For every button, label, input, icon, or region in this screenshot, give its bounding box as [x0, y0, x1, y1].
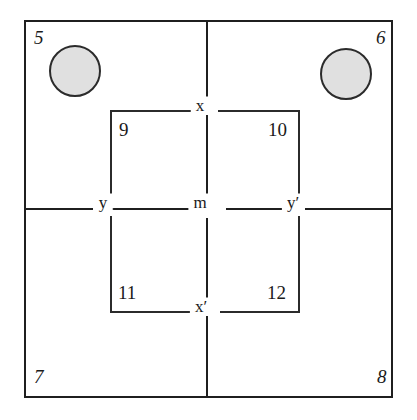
node-label-x-prime: x′: [190, 298, 212, 315]
region-label-9: 9: [119, 120, 129, 139]
node-label-y-prime: y′: [282, 194, 304, 211]
circle-top-left: [49, 45, 101, 97]
bracket-12-right: [298, 216, 300, 313]
diagram-canvas: 5 6 7 8 9 10 11 12 x x′ y m y′: [0, 0, 417, 420]
bracket-9-left: [110, 110, 112, 202]
circle-top-right: [320, 48, 372, 100]
bracket-10-right: [298, 110, 300, 202]
bracket-10-top: [218, 110, 300, 112]
bracket-11-left: [110, 216, 112, 313]
region-label-10: 10: [268, 120, 287, 139]
corner-label-5: 5: [34, 28, 44, 47]
corner-label-6: 6: [376, 28, 386, 47]
region-label-12: 12: [267, 283, 286, 302]
bracket-9-top: [110, 110, 198, 112]
bracket-12-bottom: [220, 311, 300, 313]
corner-label-8: 8: [377, 367, 387, 386]
node-label-x: x: [191, 97, 210, 114]
node-label-m: m: [188, 194, 211, 211]
node-label-y: y: [94, 194, 113, 211]
region-label-11: 11: [118, 283, 136, 302]
bracket-11-bottom: [110, 311, 198, 313]
corner-label-7: 7: [34, 367, 44, 386]
